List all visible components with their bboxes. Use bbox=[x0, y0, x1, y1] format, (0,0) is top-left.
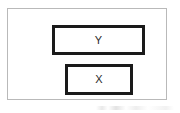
node-label-x: X bbox=[95, 74, 103, 85]
node-box-x[interactable]: X bbox=[65, 64, 133, 95]
node-label-y: Y bbox=[95, 35, 103, 46]
scan-noise-artifact bbox=[96, 106, 174, 110]
node-box-y[interactable]: Y bbox=[52, 25, 145, 55]
diagram-outer-frame: Y X bbox=[7, 8, 167, 100]
diagram-canvas: Y X bbox=[0, 0, 180, 113]
